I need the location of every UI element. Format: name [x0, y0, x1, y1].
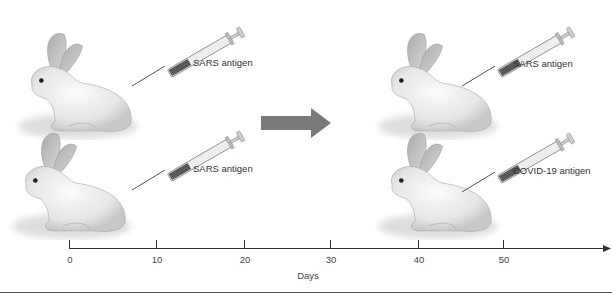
tick-50 — [503, 240, 504, 248]
syringe-bottom-left — [130, 122, 250, 192]
syringe-icon — [130, 122, 250, 192]
rabbit-top-left — [8, 30, 148, 140]
antigen-label-top-right: SARS antigen — [513, 58, 573, 69]
antigen-label-bottom-left: SARS antigen — [193, 163, 253, 174]
tick-20 — [244, 240, 245, 248]
tick-10 — [156, 240, 157, 248]
tick-label-10: 10 — [152, 254, 163, 265]
timeline-axis — [69, 248, 609, 249]
syringe-icon — [460, 18, 580, 88]
syringe-bottom-right — [460, 124, 580, 194]
antigen-label-top-left: SARS antigen — [193, 57, 253, 68]
syringe-icon — [460, 124, 580, 194]
axis-arrowhead-icon — [603, 245, 611, 252]
tick-label-20: 20 — [240, 254, 251, 265]
arrow-right-icon — [261, 108, 333, 138]
syringe-top-left — [130, 18, 250, 88]
tick-label-0: 0 — [67, 254, 72, 265]
tick-0 — [69, 240, 70, 248]
syringe-top-right — [460, 18, 580, 88]
antigen-label-bottom-right: COVID-19 antigen — [513, 165, 591, 176]
tick-label-30: 30 — [326, 254, 337, 265]
tick-40 — [418, 240, 419, 248]
rabbit-icon — [2, 130, 142, 240]
tick-30 — [330, 240, 331, 248]
syringe-icon — [130, 18, 250, 88]
rabbit-icon — [8, 30, 148, 140]
axis-label-days: Days — [297, 270, 319, 281]
tick-label-40: 40 — [414, 254, 425, 265]
tick-label-50: 50 — [499, 254, 510, 265]
progression-arrow — [261, 108, 333, 138]
bottom-rule — [0, 292, 612, 293]
rabbit-bottom-left — [2, 130, 142, 240]
